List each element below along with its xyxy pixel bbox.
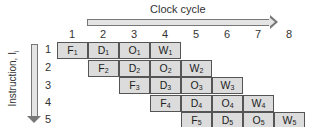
row-number-1: 1	[43, 43, 53, 55]
pipeline-cell-d2: D2	[119, 60, 150, 77]
stage-subscript: 3	[231, 84, 235, 91]
stage-subscript: 3	[199, 84, 203, 91]
stage-letter: O	[252, 114, 260, 126]
pipeline-cell-o2: O2	[150, 60, 181, 77]
stage-letter: W	[190, 62, 200, 74]
stage-subscript: 1	[169, 49, 173, 56]
clock-cycle-arrow	[87, 19, 270, 26]
pipeline-cell-f3: F3	[119, 77, 150, 94]
pipeline-cell-w3: W3	[212, 77, 243, 94]
pipeline-cell-o4: O4	[212, 95, 243, 112]
pipeline-cell-f4: F4	[150, 95, 181, 112]
stage-letter: W	[283, 114, 293, 126]
stage-subscript: 2	[136, 67, 140, 74]
stage-subscript: 4	[167, 102, 171, 109]
stage-letter: O	[159, 62, 167, 74]
instruction-arrow-head-icon	[27, 116, 41, 123]
stage-letter: O	[221, 97, 229, 109]
cycle-number-6: 6	[212, 28, 242, 40]
stage-letter: O	[190, 79, 198, 91]
pipeline-cell-d4: D4	[181, 95, 212, 112]
stage-letter: W	[221, 79, 231, 91]
row-number-4: 4	[43, 96, 53, 108]
stage-letter: O	[128, 44, 136, 56]
stage-subscript: 2	[168, 67, 172, 74]
stage-letter: W	[252, 97, 262, 109]
pipeline-cell-f1: F1	[57, 42, 88, 59]
stage-subscript: 1	[74, 49, 78, 56]
stage-subscript: 2	[200, 67, 204, 74]
cycle-number-2: 2	[88, 28, 118, 40]
cycle-number-5: 5	[181, 28, 211, 40]
cycle-number-7: 7	[243, 28, 273, 40]
stage-subscript: 2	[105, 67, 109, 74]
stage-subscript: 1	[137, 49, 141, 56]
pipeline-cell-o5: O5	[243, 112, 274, 127]
stage-subscript: 3	[136, 84, 140, 91]
stage-subscript: 5	[293, 119, 297, 126]
row-number-5: 5	[43, 113, 53, 125]
stage-subscript: 5	[261, 119, 265, 126]
stage-subscript: 5	[229, 119, 233, 126]
pipeline-cell-o1: O1	[119, 42, 150, 59]
instruction-arrow	[31, 44, 38, 116]
pipeline-cell-d3: D3	[150, 77, 181, 94]
stage-subscript: 5	[198, 119, 202, 126]
pipeline-cell-w2: W2	[181, 60, 212, 77]
pipeline-cell-w4: W4	[243, 95, 274, 112]
stage-subscript: 3	[167, 84, 171, 91]
pipeline-cell-d5: D5	[212, 112, 243, 127]
cycle-number-1: 1	[57, 28, 87, 40]
instruction-axis-label: Instruction, Ii	[7, 44, 20, 114]
stage-subscript: 1	[105, 49, 109, 56]
row-number-3: 3	[43, 79, 53, 91]
stage-subscript: 4	[230, 102, 234, 109]
pipeline-cell-w1: W1	[150, 42, 181, 59]
pipeline-cell-w5: W5	[274, 112, 305, 127]
pipeline-cell-f2: F2	[88, 60, 119, 77]
cycle-number-3: 3	[119, 28, 149, 40]
clock-cycle-arrow-head-icon	[270, 15, 278, 29]
pipeline-cell-d1: D1	[88, 42, 119, 59]
pipeline-cell-o3: O3	[181, 77, 212, 94]
stage-subscript: 4	[262, 102, 266, 109]
pipeline-cell-f5: F5	[181, 112, 212, 127]
row-number-2: 2	[43, 61, 53, 73]
cycle-number-4: 4	[150, 28, 180, 40]
stage-letter: W	[159, 44, 169, 56]
clock-cycle-label: Clock cycle	[150, 3, 206, 15]
stage-subscript: 4	[198, 102, 202, 109]
cycle-number-8: 8	[274, 28, 304, 40]
